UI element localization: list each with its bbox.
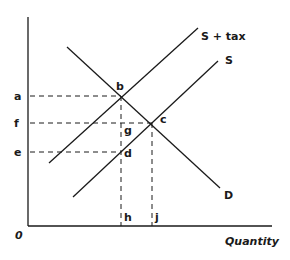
supply-curve xyxy=(73,61,218,197)
x-axis-label: Quantity xyxy=(225,236,279,247)
demand-label: D xyxy=(224,190,233,201)
price-label-a: a xyxy=(14,91,21,102)
supply-tax-curve xyxy=(49,28,198,163)
tax-incidence-diagram xyxy=(0,0,290,260)
quantity-label-j: j xyxy=(155,212,159,223)
point-label-g: g xyxy=(124,125,132,136)
point-label-d: d xyxy=(124,148,132,159)
point-label-c: c xyxy=(160,114,167,125)
origin-label: 0 xyxy=(15,230,23,241)
point-label-b: b xyxy=(116,81,124,92)
demand-curve xyxy=(67,47,220,188)
price-label-e: e xyxy=(14,147,21,158)
supply-label: S xyxy=(225,55,233,66)
quantity-label-h: h xyxy=(124,212,132,223)
supply-tax-label: S + tax xyxy=(201,31,246,42)
price-label-f: f xyxy=(14,118,19,129)
